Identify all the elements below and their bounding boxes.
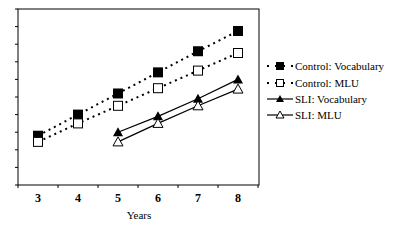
legend-label: Control: MLU xyxy=(295,77,359,89)
x-tick-label: 4 xyxy=(75,191,81,205)
filled-square-legend-icon xyxy=(266,60,294,72)
filled-square-marker xyxy=(113,88,123,98)
x-tick-label: 3 xyxy=(35,191,41,205)
filled-square-marker xyxy=(276,62,284,70)
series-sli-mlu xyxy=(113,84,243,146)
open-square-marker xyxy=(34,137,43,146)
plot-frame xyxy=(18,9,259,185)
open-triangle-legend-icon xyxy=(266,109,294,121)
series-sli-vocabulary xyxy=(113,74,243,136)
series-line xyxy=(118,89,238,142)
open-square-legend-icon xyxy=(266,77,294,89)
x-tick-label: 8 xyxy=(235,191,241,205)
x-axis-tick-labels: 345678 xyxy=(35,191,241,205)
series-control-mlu xyxy=(34,49,243,147)
open-triangle-marker xyxy=(233,84,243,93)
open-square-marker xyxy=(194,66,203,75)
legend-label: SLI: MLU xyxy=(295,109,342,121)
x-tick-label: 5 xyxy=(115,191,121,205)
filled-square-marker xyxy=(233,26,243,36)
series-line xyxy=(38,53,238,142)
open-square-marker xyxy=(114,101,123,110)
open-square-marker xyxy=(154,84,163,93)
chart-legend: Control: VocabularyControl: MLUSLI: Voca… xyxy=(266,58,395,124)
open-triangle-marker xyxy=(113,137,123,146)
filled-triangle-marker xyxy=(233,74,243,83)
series-line xyxy=(118,79,238,132)
filled-triangle-marker xyxy=(113,127,123,136)
x-tick-label: 6 xyxy=(155,191,161,205)
legend-label: Control: Vocabulary xyxy=(295,60,384,72)
filled-square-marker xyxy=(73,110,83,120)
legend-item: Control: Vocabulary xyxy=(266,58,395,74)
filled-square-marker xyxy=(153,67,163,77)
x-tick-label: 7 xyxy=(195,191,201,205)
series-control-vocabulary xyxy=(33,26,243,141)
open-square-marker xyxy=(277,79,284,86)
series-line xyxy=(38,31,238,136)
open-square-marker xyxy=(234,49,243,58)
open-square-marker xyxy=(74,119,83,128)
filled-square-marker xyxy=(193,46,203,56)
data-series xyxy=(33,26,243,146)
legend-item: SLI: MLU xyxy=(266,107,395,123)
legend-item: Control: MLU xyxy=(266,74,395,90)
filled-triangle-legend-icon xyxy=(266,93,294,105)
legend-item: SLI: Vocabulary xyxy=(266,91,395,107)
legend-label: SLI: Vocabulary xyxy=(295,93,367,105)
x-axis-title: Years xyxy=(0,209,278,221)
plot-border xyxy=(18,9,259,185)
